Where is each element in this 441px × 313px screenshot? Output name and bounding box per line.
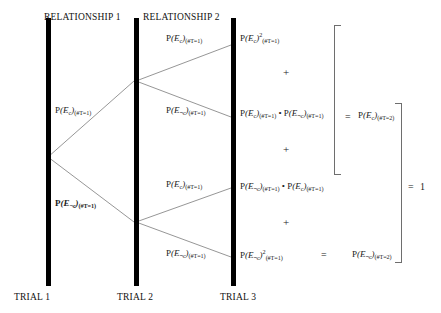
probability-tree-figure: RELATIONSHIP 1 RELATIONSHIP 2 TRIAL 1 TR… (0, 0, 441, 313)
branch-t2b-upper (136, 188, 231, 222)
result-expression-2: P(E¬c)(#T=2) (352, 249, 392, 260)
equals-sign-final: = (408, 181, 414, 192)
trial-label-3: TRIAL 3 (220, 292, 256, 302)
branch-t2a-upper (136, 45, 231, 81)
outcome-expression-2: P(Ec)(#T=1) • P(E¬c)(#T=1) (240, 108, 323, 119)
equals-sign-bottom: = (321, 249, 327, 260)
plus-operator-2: + (283, 143, 289, 155)
branch-label-t2b-upper: P(Ec)(#T=1) (166, 179, 202, 190)
header-relationship-1: RELATIONSHIP 1 (44, 12, 121, 22)
plus-operator-1: + (283, 66, 289, 78)
plus-operator-3: + (283, 216, 289, 228)
final-total-value: 1 (420, 181, 425, 192)
outcome-expression-4: P(E¬c)2(#T=1) (240, 248, 283, 261)
branch-label-t2b-lower: P(E¬c)(#T=1) (166, 248, 206, 259)
branch-t1-upper (48, 81, 134, 157)
grouping-bracket-results (395, 103, 402, 263)
trial-3-bar (231, 18, 236, 286)
result-expression-1: P(Ec)(#T=2) (358, 110, 394, 121)
header-relationship-2: RELATIONSHIP 2 (143, 12, 220, 22)
branch-t1-lower (48, 157, 134, 222)
trial-2-bar (134, 18, 139, 286)
branch-label-t1-upper: P(Ec)(#T=1) (55, 105, 91, 116)
branch-label-t2a-lower: P(E¬c)(#T=1) (166, 105, 206, 116)
grouping-bracket-upper (334, 25, 341, 175)
outcome-expression-1: P(Ec)2(#T=1) (240, 31, 279, 44)
equals-sign-top: = (345, 111, 351, 122)
trial-label-1: TRIAL 1 (14, 292, 50, 302)
trial-label-2: TRIAL 2 (117, 292, 153, 302)
tree-branch-lines (0, 0, 441, 313)
branch-label-t1-lower: P(E¬c)(#T=1) (55, 198, 96, 209)
branch-label-t2a-upper: P(Ec)(#T=1) (166, 33, 202, 44)
trial-1-bar (46, 18, 51, 286)
outcome-expression-3: P(E¬c)(#T=1) • P(Ec)(#T=1) (240, 181, 323, 192)
